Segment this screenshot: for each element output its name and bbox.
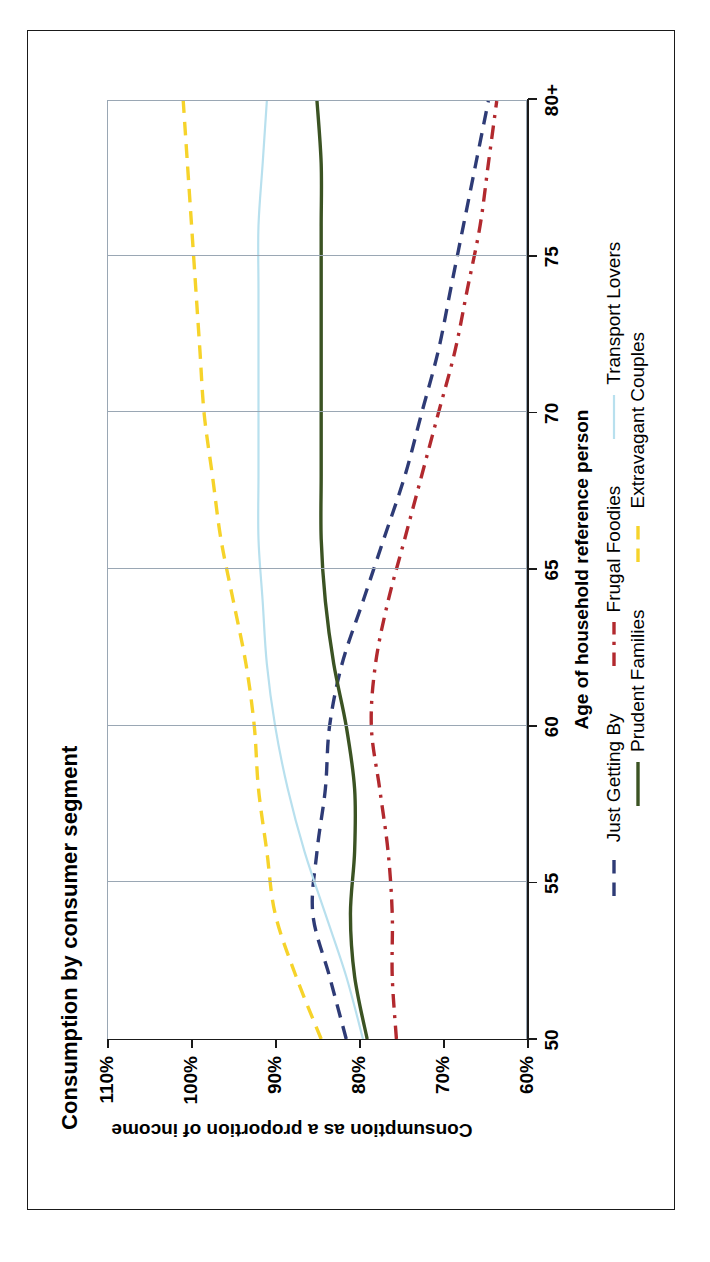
x-tick-label: 80+	[541, 70, 563, 130]
chart-figure: Consumption by consumer segment 110%100%…	[51, 50, 651, 1190]
x-tick-mark	[528, 99, 537, 101]
x-tick-mark	[528, 725, 537, 727]
x-tick-mark	[528, 412, 537, 414]
x-tick-label: 75	[541, 227, 563, 287]
series-line	[258, 101, 363, 1039]
legend-item[interactable]: Frugal Foodies	[603, 486, 625, 668]
x-tick-mark	[528, 255, 537, 257]
legend-row-2: Prudent FamiliesExtravagant Couples	[627, 99, 649, 1040]
legend-label: Just Getting By	[603, 713, 625, 842]
series-line	[183, 101, 321, 1039]
legend-label: Frugal Foodies	[603, 486, 625, 613]
grid-line	[108, 411, 526, 412]
series-line	[317, 101, 367, 1039]
x-tick-label: 60	[541, 697, 563, 757]
chart-title: Consumption by consumer segment	[57, 746, 83, 1130]
y-tick-mark	[107, 1040, 109, 1048]
y-tick-label: 110%	[96, 1056, 118, 1126]
grid-line	[108, 568, 526, 569]
x-axis-title: Age of household reference person	[571, 99, 593, 1040]
rotated-figure-wrapper: Consumption by consumer segment 110%100%…	[51, 50, 651, 1190]
legend-item[interactable]: Transport Lovers	[603, 242, 625, 440]
x-tick-label: 50	[541, 1010, 563, 1070]
legend-line-swatch-icon	[607, 394, 621, 440]
grid-line	[108, 881, 526, 882]
y-tick-label: 80%	[348, 1056, 370, 1126]
legend-item[interactable]: Extravagant Couples	[627, 332, 649, 563]
legend-line-swatch-icon	[607, 851, 621, 897]
legend-label: Prudent Families	[627, 609, 649, 752]
x-tick-mark	[528, 882, 537, 884]
y-axis-line	[107, 1039, 527, 1040]
legend-row-1: Just Getting ByFrugal FoodiesTransport L…	[603, 99, 625, 1040]
legend-line-swatch-icon	[631, 517, 645, 563]
plot-area	[107, 100, 527, 1040]
legend-item[interactable]: Prudent Families	[627, 609, 649, 807]
y-tick-mark	[191, 1040, 193, 1048]
series-lines	[108, 101, 526, 1039]
y-tick-mark	[527, 1040, 529, 1048]
grid-line	[108, 725, 526, 726]
legend-line-swatch-icon	[631, 761, 645, 807]
legend-label: Transport Lovers	[603, 242, 625, 385]
y-tick-label: 100%	[180, 1056, 202, 1126]
scanned-page-frame: Consumption by consumer segment 110%100%…	[27, 30, 675, 1210]
y-tick-mark	[275, 1040, 277, 1048]
x-tick-label: 55	[541, 853, 563, 913]
y-tick-label: 90%	[264, 1056, 286, 1126]
chart-legend: Just Getting ByFrugal FoodiesTransport L…	[607, 99, 651, 1040]
legend-item[interactable]: Just Getting By	[603, 713, 625, 897]
y-tick-label: 70%	[432, 1056, 454, 1126]
x-tick-mark	[528, 569, 537, 571]
series-line	[312, 101, 488, 1039]
y-axis-title: Consumption as a proportion of income	[82, 1119, 502, 1141]
grid-line	[108, 255, 526, 256]
x-tick-label: 70	[541, 383, 563, 443]
x-tick-mark	[528, 1039, 537, 1041]
legend-label: Extravagant Couples	[627, 332, 649, 508]
x-tick-label: 65	[541, 540, 563, 600]
y-tick-mark	[443, 1040, 445, 1048]
y-tick-mark	[359, 1040, 361, 1048]
legend-line-swatch-icon	[607, 621, 621, 667]
y-tick-label: 60%	[516, 1056, 538, 1126]
series-line	[371, 101, 497, 1039]
